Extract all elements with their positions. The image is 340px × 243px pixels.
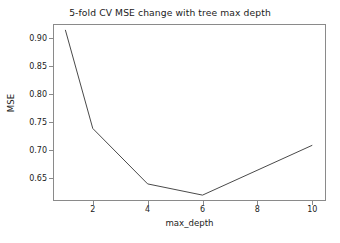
y-tick-label: 0.80 [0,89,47,98]
x-tick-mark [203,201,204,205]
y-tick-label: 0.85 [0,61,47,70]
x-tick-label: 4 [145,205,150,214]
x-tick-label: 10 [307,205,317,214]
y-tick-label: 0.75 [0,117,47,126]
y-tick-label: 0.65 [0,173,47,182]
plot-data-svg [53,24,326,201]
y-tick-label: 0.90 [0,33,47,42]
chart-title: 5-fold CV MSE change with tree max depth [0,7,340,18]
x-tick-mark [93,201,94,205]
x-tick-mark [148,201,149,205]
x-tick-label: 6 [200,205,205,214]
x-tick-label: 8 [255,205,260,214]
x-tick-mark [312,201,313,205]
x-tick-mark [257,201,258,205]
mse-line-series [65,30,312,195]
y-tick-label: 0.70 [0,145,47,154]
chart-figure: 5-fold CV MSE change with tree max depth… [0,0,340,243]
x-axis-label: max_depth [53,218,326,228]
x-tick-label: 2 [90,205,95,214]
